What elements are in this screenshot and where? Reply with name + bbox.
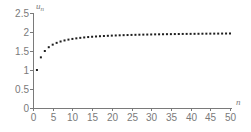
data-point [205,33,207,35]
data-point [127,34,129,36]
data-point [194,33,196,35]
data-point [111,35,113,37]
data-point [138,34,140,36]
y-axis-label-sub: n [41,5,45,13]
data-point [67,39,69,41]
data-point [190,33,192,35]
data-point [131,34,133,36]
data-point [71,38,73,40]
data-point [52,44,54,46]
data-point [99,35,101,37]
x-tick-label: 5 [51,112,57,123]
y-tick-label: 0.5 [15,84,29,95]
data-point [158,33,160,35]
data-point [162,33,164,35]
data-point [213,33,215,35]
data-point [221,33,223,35]
data-point [64,39,66,41]
x-tick-label: 20 [107,112,119,123]
axes: 00.511.522.505101520253035404550 [15,8,236,123]
data-point [217,33,219,35]
data-point [40,56,42,58]
y-axis-label: un [36,1,45,13]
data-point [186,33,188,35]
data-point [225,33,227,35]
x-tick-label: 25 [127,112,139,123]
data-point [201,33,203,35]
data-point [83,36,85,38]
x-tick-label: 50 [225,112,237,123]
data-point [170,33,172,35]
data-point [87,36,89,38]
sequence-chart: 00.511.522.505101520253035404550 un n [0,0,251,132]
data-point [154,33,156,35]
data-point [150,33,152,35]
data-points [36,32,231,71]
data-point [119,34,121,36]
data-point [174,33,176,35]
x-tick-label: 10 [67,112,79,123]
y-tick-label: 2.5 [15,8,29,19]
data-point [75,37,77,39]
x-axis-label: n [236,97,241,107]
x-tick-label: 0 [31,112,37,123]
data-point [44,50,46,52]
x-tick-label: 45 [205,112,217,123]
data-point [56,42,58,44]
data-point [107,35,109,37]
data-point [142,34,144,36]
data-point [182,33,184,35]
data-point [115,34,117,36]
data-point [146,34,148,36]
data-point [60,41,62,43]
data-point [95,35,97,37]
y-tick-label: 1.5 [15,46,29,57]
y-tick-label: 2 [23,27,29,38]
y-tick-label: 1 [23,65,29,76]
data-point [36,69,38,71]
x-tick-label: 40 [186,112,198,123]
data-point [134,34,136,36]
data-point [79,37,81,39]
data-point [178,33,180,35]
data-point [91,36,93,38]
x-tick-label: 35 [166,112,178,123]
data-point [209,33,211,35]
data-point [123,34,125,36]
data-point [197,33,199,35]
data-point [103,35,105,37]
x-tick-label: 30 [146,112,158,123]
y-tick-label: 0 [23,103,29,114]
data-point [166,33,168,35]
axis-labels: un n [36,1,241,107]
x-tick-label: 15 [87,112,99,123]
data-point [48,46,50,48]
data-point [229,32,231,34]
